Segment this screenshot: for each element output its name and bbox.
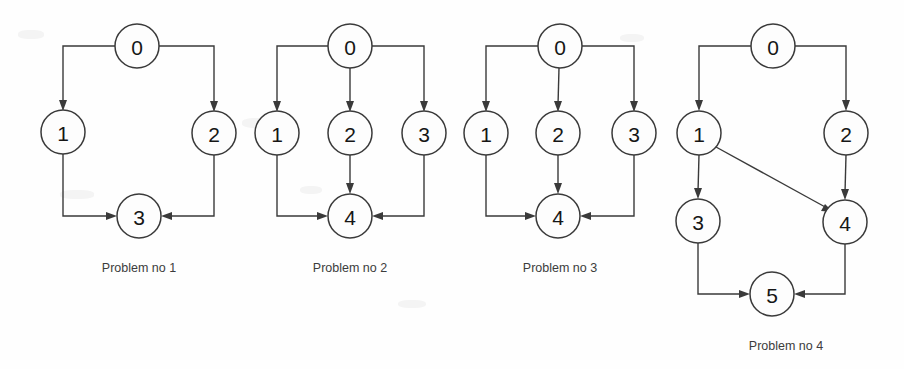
graph-canvas: 0 1 2 3 Problem no 1 [0,0,904,369]
edge-2-to-4 [841,155,849,200]
edge-3-to-4 [372,155,424,220]
edge-2-to-4 [554,155,562,194]
node-0[interactable]: 0 [751,24,795,68]
node-2[interactable]: 2 [192,111,236,155]
node-1[interactable]: 1 [41,110,85,154]
node-1[interactable]: 1 [677,111,721,155]
node-3[interactable]: 3 [676,199,720,243]
edge-1-to-4 [277,155,328,220]
node-label: 1 [480,123,492,146]
edge-0-to-3 [372,46,428,112]
node-0[interactable]: 0 [538,24,582,68]
node-0[interactable]: 0 [328,24,372,68]
node-label: 0 [767,36,779,59]
node-label: 2 [208,123,220,146]
node-label: 1 [271,123,283,146]
edge-0-to-1 [482,46,538,112]
caption-problem-2: Problem no 2 [313,261,387,275]
node-2[interactable]: 2 [824,111,868,155]
node-label: 3 [628,123,640,146]
node-label: 2 [552,123,564,146]
node-label: 3 [692,211,704,234]
node-1[interactable]: 1 [464,111,508,155]
node-label: 4 [839,212,851,235]
node-label: 0 [554,36,566,59]
edge-0-to-1 [59,46,115,111]
diagram-problem-2: 0 1 2 3 4 Problem no 2 [255,24,446,275]
diagram-problem-4: 0 1 2 3 4 5 Problem no 4 [676,24,868,353]
edge-0-to-3 [582,46,638,112]
caption-problem-3: Problem no 3 [523,261,597,275]
edge-0-to-2 [346,68,354,112]
diagram-problem-3: 0 1 2 3 4 Problem no 3 [464,24,656,275]
node-label: 3 [418,123,430,146]
edge-0-to-2 [554,68,562,112]
node-0[interactable]: 0 [115,24,159,68]
node-3[interactable]: 3 [612,111,656,155]
node-label: 3 [133,206,145,229]
node-label: 2 [840,123,852,146]
caption-problem-4: Problem no 4 [749,339,823,353]
node-label: 4 [344,206,356,229]
node-4[interactable]: 4 [536,194,580,238]
edge-4-to-5 [794,244,845,298]
node-4[interactable]: 4 [823,200,867,244]
node-label: 1 [693,123,705,146]
node-2[interactable]: 2 [536,111,580,155]
edge-1-to-4 [486,155,536,220]
edge-2-to-3 [161,155,214,220]
edge-3-to-5 [698,243,750,298]
edge-0-to-2 [159,46,218,112]
edge-1-to-3 [63,154,117,220]
node-label: 4 [552,206,564,229]
node-2[interactable]: 2 [328,111,372,155]
node-label: 0 [131,36,143,59]
edge-0-to-1 [695,46,751,111]
edge-1-to-3 [694,155,702,199]
node-1[interactable]: 1 [255,111,299,155]
node-3[interactable]: 3 [117,194,161,238]
edge-2-to-4 [346,155,354,194]
node-5[interactable]: 5 [750,272,794,316]
node-label: 0 [344,36,356,59]
node-3[interactable]: 3 [402,111,446,155]
edge-3-to-4 [580,155,634,220]
task-graph-figure: 0 1 2 3 Problem no 1 [0,0,904,369]
edge-0-to-2 [795,46,850,111]
diagram-problem-1: 0 1 2 3 Problem no 1 [41,24,236,275]
node-label: 2 [344,123,356,146]
node-label: 5 [766,284,778,307]
caption-problem-1: Problem no 1 [102,261,176,275]
edge-1-to-4 [716,147,833,212]
node-label: 1 [57,122,69,145]
node-4[interactable]: 4 [328,194,372,238]
edge-0-to-1 [273,46,328,112]
